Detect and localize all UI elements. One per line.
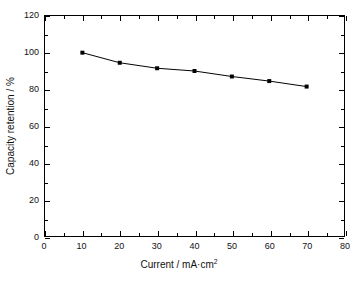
x-tick-label: 70 <box>302 241 312 251</box>
y-tick-label: 60 <box>29 121 39 131</box>
x-tick-label: 40 <box>189 241 199 251</box>
axis-tick <box>341 109 344 110</box>
plot-area <box>44 15 345 237</box>
data-point <box>305 85 309 89</box>
axis-tick <box>346 231 347 236</box>
x-tick-label: 10 <box>77 241 87 251</box>
y-tick-label: 0 <box>34 232 39 242</box>
axis-tick <box>271 16 272 21</box>
x-tick-label: 50 <box>227 241 237 251</box>
axis-tick <box>45 201 50 202</box>
axis-tick <box>214 233 215 236</box>
axis-tick <box>45 109 48 110</box>
axis-tick <box>341 146 344 147</box>
axis-tick <box>158 16 159 21</box>
axis-tick <box>339 90 344 91</box>
axis-tick <box>45 72 48 73</box>
axis-tick <box>64 16 65 19</box>
y-axis-label: Capacity retention / % <box>5 77 16 175</box>
axis-tick <box>196 231 197 236</box>
axis-tick <box>346 16 347 21</box>
data-series-layer <box>45 16 344 236</box>
axis-tick <box>45 53 50 54</box>
axis-tick <box>252 233 253 236</box>
axis-tick <box>45 231 46 236</box>
series-markers-capacity-retention <box>80 51 308 89</box>
data-point <box>155 66 159 70</box>
axis-tick <box>339 238 344 239</box>
axis-tick <box>45 127 50 128</box>
axis-tick <box>83 231 84 236</box>
x-tick-label: 0 <box>41 241 46 251</box>
x-axis-label-superscript: 2 <box>214 258 218 265</box>
axis-tick <box>233 231 234 236</box>
axis-tick <box>45 183 48 184</box>
axis-tick <box>120 231 121 236</box>
y-tick-label: 40 <box>29 158 39 168</box>
axis-tick <box>64 233 65 236</box>
axis-tick <box>341 35 344 36</box>
axis-tick <box>308 231 309 236</box>
axis-tick <box>158 231 159 236</box>
y-tick-label: 100 <box>24 47 39 57</box>
axis-tick <box>177 233 178 236</box>
y-tick-label: 80 <box>29 84 39 94</box>
axis-tick <box>290 233 291 236</box>
axis-tick <box>45 35 48 36</box>
axis-tick <box>308 16 309 21</box>
data-point <box>80 51 84 55</box>
axis-tick <box>339 164 344 165</box>
axis-tick <box>120 16 121 21</box>
axis-tick <box>101 16 102 19</box>
x-tick-label: 30 <box>152 241 162 251</box>
axis-tick <box>101 233 102 236</box>
axis-tick <box>45 146 48 147</box>
axis-tick <box>341 72 344 73</box>
axis-tick <box>45 164 50 165</box>
axis-tick <box>45 220 48 221</box>
axis-tick <box>45 90 50 91</box>
axis-tick <box>83 16 84 21</box>
axis-tick <box>339 201 344 202</box>
axis-tick <box>139 233 140 236</box>
axis-tick <box>177 16 178 19</box>
axis-tick <box>196 16 197 21</box>
y-axis-label-container: Capacity retention / % <box>2 0 18 285</box>
data-point <box>230 75 234 79</box>
data-point <box>267 79 271 83</box>
axis-tick <box>339 16 344 17</box>
axis-tick <box>327 233 328 236</box>
axis-tick <box>339 127 344 128</box>
data-point <box>193 69 197 73</box>
axis-tick <box>290 16 291 19</box>
x-axis-label: Current / mA·cm2 <box>0 259 358 270</box>
axis-tick <box>45 16 50 17</box>
x-tick-label: 60 <box>265 241 275 251</box>
axis-tick <box>45 238 50 239</box>
x-tick-label: 20 <box>114 241 124 251</box>
axis-tick <box>271 231 272 236</box>
axis-tick <box>214 16 215 19</box>
axis-tick <box>252 16 253 19</box>
axis-tick <box>139 16 140 19</box>
data-point <box>118 61 122 65</box>
axis-tick <box>339 53 344 54</box>
chart-figure: Capacity retention / % Current / mA·cm2 … <box>0 0 358 285</box>
axis-tick <box>233 16 234 21</box>
x-tick-label: 80 <box>340 241 350 251</box>
y-tick-label: 120 <box>24 10 39 20</box>
axis-tick <box>341 220 344 221</box>
axis-tick <box>341 183 344 184</box>
x-axis-label-text: Current / mA·cm <box>140 259 213 270</box>
axis-tick <box>327 16 328 19</box>
y-tick-label: 20 <box>29 195 39 205</box>
